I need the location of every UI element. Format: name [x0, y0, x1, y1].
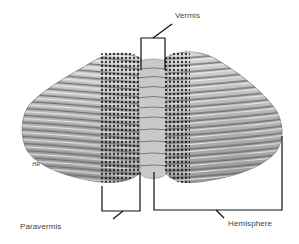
artist-signature: HR: [31, 161, 40, 167]
label-paravermis: Paravermis: [20, 222, 61, 231]
paravermis-right-stipple: [165, 51, 190, 184]
label-vermis: Vermis: [175, 11, 200, 20]
label-hemisphere: Hemisphere: [228, 219, 272, 228]
vermis-region: [136, 59, 170, 179]
paravermis-left-stipple: [100, 51, 141, 182]
cerebellum-diagram: HR: [0, 0, 299, 244]
